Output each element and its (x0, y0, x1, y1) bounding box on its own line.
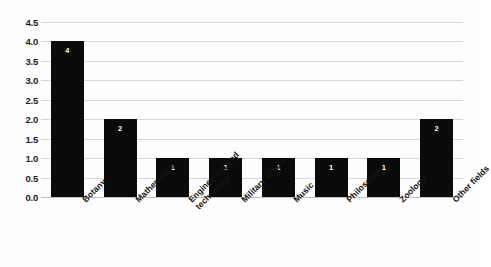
gridline-3.0 (41, 80, 463, 81)
x-category-label: Philosophy (345, 198, 352, 205)
y-tick-label: 0.0 (4, 192, 38, 203)
bar-value-label: 4 (51, 46, 84, 55)
y-tick-label: 4.5 (4, 17, 38, 28)
bar-value-label: 1 (315, 163, 348, 172)
x-category-label: Engineering andtechnology (187, 198, 201, 212)
x-category-label: Mathematics (134, 198, 141, 205)
bar[interactable]: 2 (420, 119, 453, 197)
y-tick-label: 1.5 (4, 133, 38, 144)
y-tick-label: 2.5 (4, 94, 38, 105)
bar-value-label: 2 (104, 124, 137, 133)
bar[interactable]: 2 (104, 119, 137, 197)
bar[interactable]: 4 (51, 41, 84, 197)
y-tick-label: 2.0 (4, 114, 38, 125)
x-category-label: Botany (81, 198, 88, 205)
x-axis-category-labels: BotanyMathematicsEngineering andtechnolo… (41, 198, 463, 267)
x-category-label: Other fields (451, 198, 458, 205)
bar-value-label: 2 (420, 124, 453, 133)
y-tick-label: 3.0 (4, 75, 38, 86)
plot-area: 42111112 (41, 22, 463, 197)
y-axis-tick-labels: 0.00.51.01.52.02.53.03.54.04.5 (0, 22, 38, 197)
y-tick-label: 4.0 (4, 36, 38, 47)
gridline-4.5 (41, 22, 463, 23)
x-label-line: technology (194, 205, 201, 212)
x-category-label: Music (292, 198, 299, 205)
bar[interactable]: 1 (315, 158, 348, 197)
gridline-4.0 (41, 41, 463, 42)
y-tick-label: 1.0 (4, 153, 38, 164)
y-tick-label: 0.5 (4, 172, 38, 183)
gridline-3.5 (41, 61, 463, 62)
x-category-label: Zoology (398, 198, 405, 205)
gridline-2.5 (41, 100, 463, 101)
y-tick-label: 3.5 (4, 55, 38, 66)
x-category-label: Military affairs (240, 198, 247, 205)
